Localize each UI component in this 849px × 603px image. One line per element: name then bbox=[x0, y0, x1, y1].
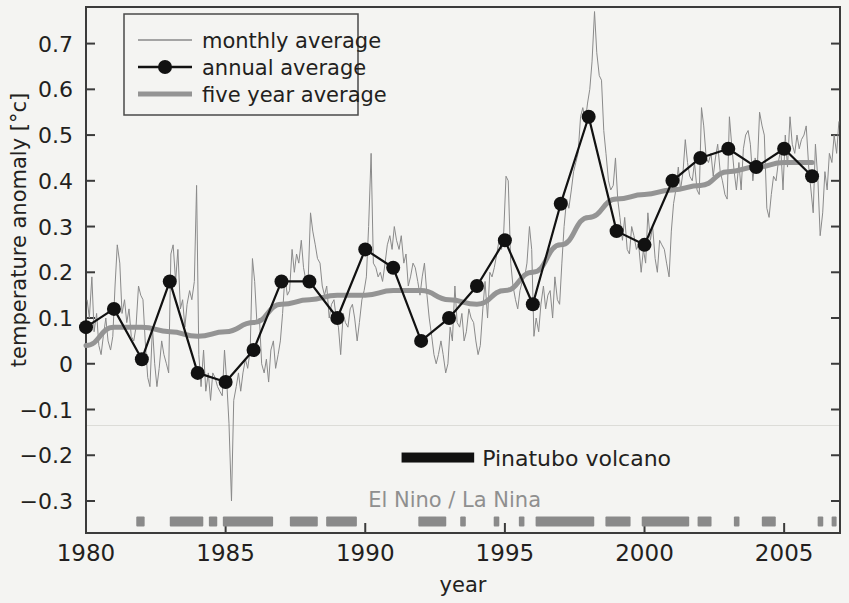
annual-average-marker bbox=[526, 297, 540, 311]
annual-average-marker bbox=[638, 238, 652, 252]
legend-label: monthly average bbox=[202, 29, 381, 53]
event-bar-segment bbox=[223, 517, 273, 527]
annual-average-marker bbox=[554, 197, 568, 211]
x-axis-label: year bbox=[440, 573, 487, 597]
y-tick-label: −0.2 bbox=[20, 443, 73, 468]
annual-average-marker bbox=[79, 320, 93, 334]
temperature-anomaly-chart: −0.3−0.2−0.100.10.20.30.40.50.60.7198019… bbox=[0, 0, 849, 603]
y-tick-label: 0.4 bbox=[38, 169, 73, 194]
event-bar-segment bbox=[209, 517, 217, 527]
annual-average-marker bbox=[135, 352, 149, 366]
legend-swatch-annual-marker bbox=[158, 60, 172, 74]
event-bar-segment bbox=[762, 517, 776, 527]
event-bar-segment bbox=[460, 517, 466, 527]
annual-average-marker bbox=[498, 233, 512, 247]
event-bar-segment bbox=[642, 517, 689, 527]
elnino-lanina-label: El Nino / La Nina bbox=[368, 488, 541, 512]
annual-average-marker bbox=[163, 274, 177, 288]
annual-average-marker bbox=[693, 151, 707, 165]
annual-average-marker bbox=[386, 261, 400, 275]
x-tick-label: 1990 bbox=[336, 540, 395, 566]
event-bar-segment bbox=[170, 517, 204, 527]
y-axis-label: temperature anomaly [°c] bbox=[7, 93, 31, 367]
annual-average-marker bbox=[665, 174, 679, 188]
x-tick-label: 2005 bbox=[755, 540, 814, 566]
annual-average-marker bbox=[442, 311, 456, 325]
event-bar-segment bbox=[519, 517, 525, 527]
event-bar-segment bbox=[832, 517, 837, 527]
annual-average-marker bbox=[749, 160, 763, 174]
event-bar-segment bbox=[326, 517, 357, 527]
y-tick-label: 0.7 bbox=[38, 32, 73, 57]
event-bar-segment bbox=[818, 517, 824, 527]
annual-average-marker bbox=[247, 343, 261, 357]
pinatubo-bar bbox=[402, 453, 475, 463]
y-tick-label: 0 bbox=[59, 352, 73, 377]
annual-average-marker bbox=[721, 142, 735, 156]
pinatubo-label: Pinatubo volcano bbox=[482, 446, 671, 471]
annual-average-marker bbox=[302, 274, 316, 288]
annual-average-marker bbox=[219, 375, 233, 389]
y-tick-label: 0.2 bbox=[38, 260, 73, 285]
legend-label: annual average bbox=[202, 56, 366, 80]
annual-average-marker bbox=[107, 302, 121, 316]
event-bar-segment bbox=[136, 517, 144, 527]
event-bar-segment bbox=[290, 517, 318, 527]
annual-average-marker bbox=[358, 242, 372, 256]
event-bar-segment bbox=[605, 517, 630, 527]
y-tick-label: 0.6 bbox=[38, 77, 73, 102]
annual-average-marker bbox=[582, 110, 596, 124]
y-tick-label: 0.3 bbox=[38, 215, 73, 240]
event-bar-segment bbox=[536, 517, 595, 527]
x-tick-label: 1980 bbox=[57, 540, 116, 566]
event-bar-segment bbox=[418, 517, 446, 527]
annual-average-marker bbox=[274, 274, 288, 288]
event-bar-segment bbox=[494, 517, 500, 527]
annual-average-marker bbox=[470, 279, 484, 293]
annual-average-marker bbox=[414, 334, 428, 348]
x-tick-label: 2000 bbox=[615, 540, 674, 566]
y-tick-label: −0.1 bbox=[20, 398, 73, 423]
x-tick-label: 1985 bbox=[196, 540, 255, 566]
legend-label: five year average bbox=[202, 83, 387, 107]
annual-average-marker bbox=[805, 169, 819, 183]
y-tick-label: −0.3 bbox=[20, 489, 73, 514]
annual-average-marker bbox=[777, 142, 791, 156]
event-bar-segment bbox=[698, 517, 712, 527]
y-tick-label: 0.1 bbox=[38, 306, 73, 331]
annual-average-marker bbox=[330, 311, 344, 325]
x-tick-label: 1995 bbox=[476, 540, 535, 566]
y-tick-label: 0.5 bbox=[38, 123, 73, 148]
event-bar-segment bbox=[734, 517, 740, 527]
annual-average-marker bbox=[610, 224, 624, 238]
annual-average-marker bbox=[191, 366, 205, 380]
chart-figure: −0.3−0.2−0.100.10.20.30.40.50.60.7198019… bbox=[0, 0, 849, 603]
